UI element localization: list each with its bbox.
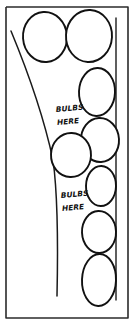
garden-sketch-page: BULBSHEREBULBSHERE [0,0,135,326]
oval-right-upper [78,67,116,116]
oval-right-lower [81,210,116,253]
sketch-canvas: BULBSHEREBULBSHERE [0,0,135,326]
oval-right-lower-mid [86,166,117,207]
circle-center-mid [50,132,92,177]
oval-bottom-right [81,253,117,306]
